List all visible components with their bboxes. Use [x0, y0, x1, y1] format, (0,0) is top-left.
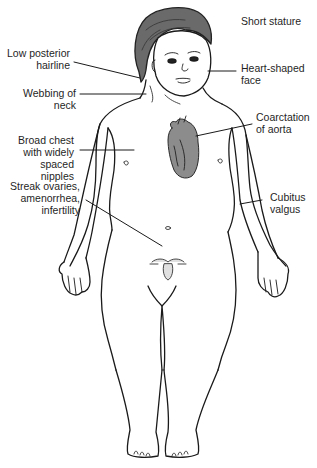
label-cubitus-valgus: Cubitus valgus: [270, 191, 306, 215]
leader-ovaries: [86, 200, 162, 246]
label-broad-chest: Broad chest with widely spaced nipples: [18, 134, 74, 182]
face-outline-icon: [154, 31, 211, 96]
groin-icon: [148, 286, 176, 306]
right-fingers-icon: [264, 278, 278, 295]
left-leg-icon: [116, 370, 162, 457]
reproductive-organs-icon: [150, 259, 186, 280]
label-coarctation-of-aorta: Coarctation of aorta: [256, 111, 310, 135]
right-eye-icon: [190, 57, 198, 61]
left-hand-icon: [59, 258, 90, 295]
navel-icon: [166, 227, 171, 230]
torso-inner-left-icon: [108, 128, 115, 230]
right-nipple-icon: [218, 159, 222, 163]
label-webbing-of-neck: Webbing of neck: [23, 87, 76, 111]
right-hand-icon: [258, 252, 289, 297]
left-eye-icon: [168, 59, 176, 63]
hip-right-icon: [218, 232, 236, 370]
label-low-posterior-hairline: Low posterior hairline: [7, 47, 70, 71]
leader-cubitus: [240, 200, 262, 204]
leader-aorta: [196, 124, 252, 136]
torso-inner-right-icon: [228, 128, 235, 232]
left-nipple-icon: [124, 161, 128, 165]
right-leg-icon: [164, 370, 218, 457]
label-short-stature: Short stature: [241, 15, 301, 27]
leader-hairline: [74, 62, 140, 78]
left-fingers-icon: [68, 276, 82, 294]
label-streak-ovaries: Streak ovaries, amenorrhea, infertility: [10, 180, 80, 216]
hip-left-icon: [101, 230, 116, 370]
inner-thigh-icon: [161, 306, 165, 370]
torso-left-icon: [70, 98, 140, 266]
heart-organ-icon: [168, 119, 199, 178]
toes-icon: [134, 451, 188, 456]
label-heart-shaped-face: Heart-shaped face: [241, 62, 305, 86]
